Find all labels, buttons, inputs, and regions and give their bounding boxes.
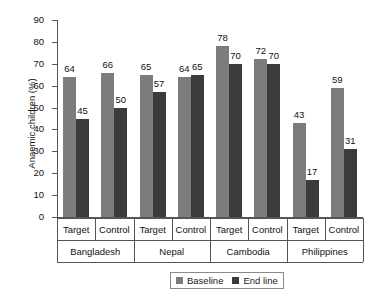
bar-value-label: 45 [77, 106, 88, 116]
bar-value-label: 64 [179, 64, 190, 74]
category-separator [134, 218, 135, 240]
y-axis-tick-label: 90 [33, 15, 44, 25]
bar-value-label: 70 [230, 51, 241, 61]
y-axis-tick: 70 [52, 64, 57, 65]
category-label-subgroup: Target [287, 218, 325, 240]
bar-baseline: 64 [63, 77, 76, 217]
legend-item-baseline: Baseline [176, 275, 223, 286]
group-separator [134, 240, 135, 262]
y-axis-tick: 90 [52, 20, 57, 21]
y-axis-line [57, 20, 58, 217]
bar-value-label: 50 [116, 95, 127, 105]
y-axis-tick-label: 0 [39, 212, 44, 222]
category-label-subgroup: Target [57, 218, 95, 240]
bar-baseline: 59 [331, 88, 344, 217]
bar-endline: 70 [267, 64, 280, 217]
y-axis-tick-label: 10 [33, 190, 44, 200]
bar-value-label: 17 [307, 167, 318, 177]
group-separator [57, 240, 58, 262]
category-separator [248, 218, 249, 240]
category-label-subgroup: Target [210, 218, 248, 240]
bar-endline: 57 [153, 92, 166, 217]
bar-value-label: 31 [345, 136, 356, 146]
group-separator [210, 240, 211, 262]
category-label-group: Bangladesh [57, 240, 134, 262]
bar-baseline: 65 [140, 75, 153, 217]
category-label-subgroup: Target [134, 218, 172, 240]
category-axis-subgroups: TargetControlTargetControlTargetControlT… [57, 218, 363, 240]
category-axis-bottom-rule [57, 262, 363, 263]
category-label-subgroup: Control [248, 218, 286, 240]
bar-value-label: 65 [192, 62, 203, 72]
bar-endline: 50 [114, 108, 127, 217]
plot-area: 0102030405060708090 64456650655764657870… [57, 20, 363, 217]
bar-value-label: 70 [269, 51, 280, 61]
y-axis-tick-label: 30 [33, 147, 44, 157]
category-separator [57, 218, 58, 240]
bar-value-label: 43 [294, 110, 305, 120]
bar-baseline: 78 [216, 46, 229, 217]
legend-label-endline: End line [243, 275, 277, 286]
y-axis-tick: 30 [52, 151, 57, 152]
legend-swatch-endline [232, 277, 239, 284]
legend-swatch-baseline [176, 277, 183, 284]
category-label-group: Nepal [134, 240, 211, 262]
group-separator [287, 240, 288, 262]
bar-endline: 31 [344, 149, 357, 217]
y-axis-tick-label: 70 [33, 59, 44, 69]
bar-value-label: 65 [141, 62, 152, 72]
category-label-group: Philippines [287, 240, 364, 262]
group-separator [363, 240, 364, 262]
bar-endline: 45 [76, 119, 89, 218]
legend-label-baseline: Baseline [187, 275, 223, 286]
y-axis-tick: 40 [52, 129, 57, 130]
category-separator [287, 218, 288, 240]
bar-chart: Anaemic children (%) 0102030405060708090… [0, 0, 390, 300]
category-separator [95, 218, 96, 240]
y-axis-tick-label: 60 [33, 81, 44, 91]
category-separator [363, 218, 364, 240]
y-axis-tick: 20 [52, 173, 57, 174]
legend-item-endline: End line [232, 275, 277, 286]
bar-endline: 70 [229, 64, 242, 217]
bar-baseline: 43 [293, 123, 306, 217]
y-axis-tick-label: 20 [33, 168, 44, 178]
category-separator [325, 218, 326, 240]
chart-legend: Baseline End line [170, 272, 284, 289]
y-axis-tick-label: 40 [33, 125, 44, 135]
bar-baseline: 64 [178, 77, 191, 217]
y-axis-tick: 60 [52, 86, 57, 87]
y-axis-tick-label: 80 [33, 37, 44, 47]
bar-value-label: 57 [154, 79, 165, 89]
category-axis-groups: BangladeshNepalCambodiaPhilippines [57, 240, 363, 262]
y-axis-tick: 10 [52, 195, 57, 196]
y-axis-tick: 80 [52, 42, 57, 43]
category-separator [172, 218, 173, 240]
bar-value-label: 78 [217, 33, 228, 43]
bar-endline: 65 [191, 75, 204, 217]
bar-value-label: 64 [64, 64, 75, 74]
bar-value-label: 72 [256, 46, 267, 56]
bar-baseline: 72 [254, 59, 267, 217]
category-label-subgroup: Control [325, 218, 363, 240]
category-label-subgroup: Control [172, 218, 210, 240]
category-separator [210, 218, 211, 240]
y-axis-tick: 50 [52, 108, 57, 109]
bar-endline: 17 [306, 180, 319, 217]
bar-value-label: 59 [332, 75, 343, 85]
category-label-group: Cambodia [210, 240, 287, 262]
y-axis-tick-label: 50 [33, 103, 44, 113]
bar-baseline: 66 [101, 73, 114, 217]
category-label-subgroup: Control [95, 218, 133, 240]
bar-value-label: 66 [103, 60, 114, 70]
